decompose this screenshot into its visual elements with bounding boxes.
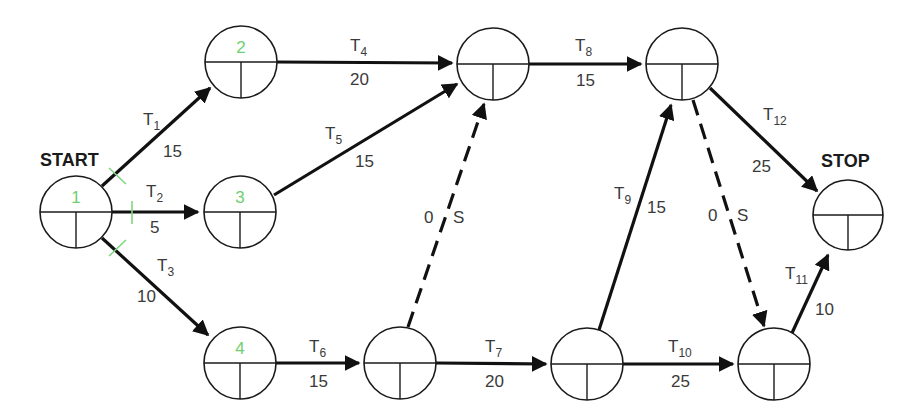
task-duration-t6: 15	[309, 372, 328, 391]
edge-t7	[436, 363, 546, 364]
task-duration-t9: 15	[647, 198, 666, 217]
task-label-t7: T7	[485, 337, 502, 360]
node-1: 1	[40, 176, 112, 248]
task-label-t4: T4	[350, 36, 367, 59]
task-label-t3: T3	[157, 256, 174, 279]
task-duration-t5: 15	[355, 152, 374, 171]
dummy-label-1: S	[453, 208, 464, 227]
node-4: 4	[204, 327, 276, 399]
edge-t5	[274, 84, 457, 195]
task-duration-t10: 25	[671, 372, 690, 391]
task-duration-t4: 20	[350, 70, 369, 89]
dummy-label-2: S	[737, 206, 748, 225]
node-6	[646, 28, 718, 100]
task-label-t2: T2	[146, 182, 163, 205]
task-label-t8: T8	[575, 36, 592, 59]
node-8	[551, 328, 623, 400]
node-number: 3	[235, 188, 244, 207]
task-duration-t1: 15	[163, 142, 182, 161]
task-label-t9: T9	[614, 184, 631, 207]
edge-t11	[792, 255, 828, 333]
dummy-duration-1: 0	[424, 208, 433, 227]
task-duration-t7: 20	[485, 372, 504, 391]
node-5	[457, 28, 529, 100]
node-number: 2	[236, 38, 245, 57]
network-diagram: 1 2 3 4	[0, 0, 919, 419]
task-duration-t12: 25	[752, 157, 771, 176]
edge-t4	[277, 62, 452, 63]
dummy-duration-2: 0	[708, 206, 717, 225]
stop-label: STOP	[821, 151, 870, 171]
task-duration-t3: 10	[137, 287, 156, 306]
task-label-t6: T6	[309, 337, 326, 360]
task-label-t10: T10	[668, 337, 692, 360]
task-label-t1: T1	[143, 110, 160, 133]
node-2: 2	[205, 26, 277, 98]
node-stop	[813, 180, 883, 250]
task-duration-t8: 15	[576, 71, 595, 90]
task-duration-t11: 10	[815, 300, 834, 319]
task-duration-t2: 5	[150, 218, 159, 237]
node-3: 3	[204, 176, 276, 248]
node-number: 1	[71, 188, 80, 207]
node-9	[738, 328, 810, 400]
start-label: START	[40, 150, 99, 170]
edge-t9	[599, 105, 671, 330]
task-label-t5: T5	[325, 124, 342, 147]
edge-dummy-1	[408, 104, 484, 327]
edge-t1	[102, 88, 210, 186]
node-number: 4	[235, 339, 244, 358]
node-7	[364, 327, 436, 399]
task-label-t11: T11	[785, 264, 808, 287]
edge-dummy-2	[693, 100, 764, 326]
task-label-t12: T12	[763, 105, 787, 128]
